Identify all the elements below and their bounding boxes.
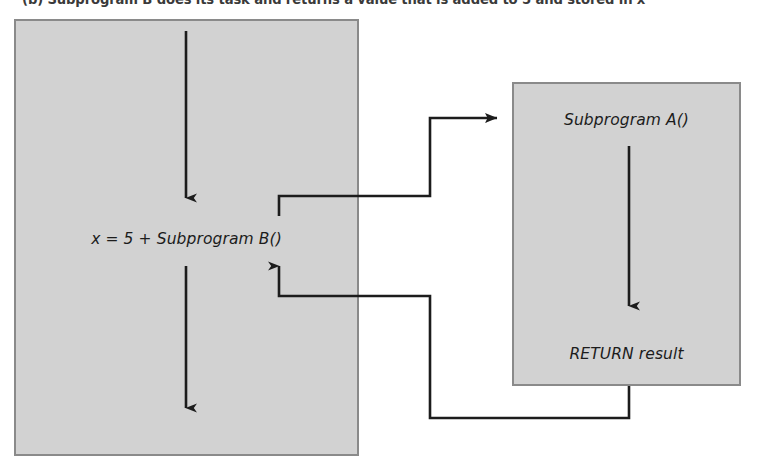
subprogram-a-title: Subprogram A() — [514, 111, 739, 129]
figure-root: (b) Subprogram B does its task and retur… — [0, 0, 764, 473]
main-program-label: x = 5 + Subprogram B() — [16, 230, 357, 248]
subprogram-a-box: Subprogram A() RETURN result — [512, 82, 741, 386]
main-program-box: x = 5 + Subprogram B() — [14, 19, 359, 456]
return-result-label: RETURN result — [514, 345, 739, 363]
figure-caption: (b) Subprogram B does its task and retur… — [0, 0, 764, 9]
